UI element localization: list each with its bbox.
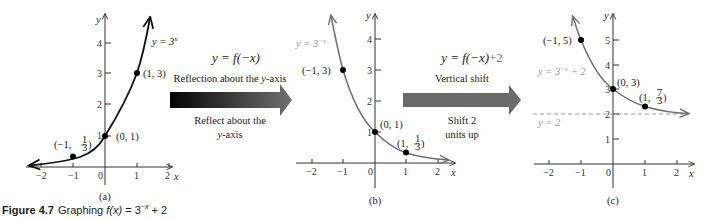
x-axis-label: x <box>688 168 694 179</box>
x-tick-label: 0 <box>368 166 373 177</box>
y-tick-label: 4 <box>97 38 102 49</box>
panel-label: (c) <box>607 195 619 207</box>
caption-eq: = 3 <box>122 204 141 216</box>
transform-vertical-shift: y = f(−x)+2 Vertical shift Shift 2 units… <box>403 50 521 140</box>
y-axis-label: y <box>95 14 101 25</box>
transform-description: y-axis <box>216 129 242 140</box>
point-marker <box>610 86 616 92</box>
x-tick-label: −2 <box>36 170 47 181</box>
transform-arrow <box>403 85 521 115</box>
transform-reflection: y = f(−x) Reflection about the y-axis Re… <box>170 50 292 140</box>
point-label: (0, 1) <box>380 119 403 131</box>
point-label: (−1, <box>54 139 71 151</box>
point-label-close: ) <box>663 92 667 104</box>
point-marker <box>372 129 378 135</box>
figure-4-7: −2 −1 0 1 2 x 1 2 3 4 y (−1, 1 3 ) (0, 1… <box>0 0 717 220</box>
panel-b: −2 −1 0 1 2 x 1 2 3 4 y (−1, 3) (0, 1) (… <box>295 10 456 207</box>
y-axis-label: y <box>603 10 609 21</box>
point-marker <box>70 154 76 160</box>
y-tick-label: 2 <box>605 109 610 120</box>
y-tick-label: 5 <box>605 35 610 46</box>
y-tick-label: 1 <box>97 130 102 141</box>
point-marker <box>102 133 108 139</box>
panel-label: (b) <box>369 195 382 207</box>
asymptote-label: y = 2 <box>537 117 561 128</box>
point-label-close: ) <box>88 139 92 151</box>
curve-label: y = 3x <box>151 35 178 47</box>
x-tick-label: −1 <box>337 166 348 177</box>
panel-c: −2 −1 0 1 2 x 1 2 3 4 5 y (−1, 5) (0, 3)… <box>533 10 694 207</box>
point-label-close: ) <box>421 138 425 150</box>
point-marker <box>578 37 584 43</box>
curve-3-pow-neg-x <box>331 16 448 160</box>
x-tick-label: −2 <box>306 166 317 177</box>
caption-func: f(x) <box>106 204 122 216</box>
y-tick-label: 3 <box>367 65 372 76</box>
figure-caption: Figure 4.7Graphing f(x) = 3−x + 2 <box>2 203 167 216</box>
x-tick-label: 2 <box>435 166 440 177</box>
transform-arrow <box>170 84 292 116</box>
point-label-frac-den: 3 <box>415 141 420 152</box>
transform-formula: y = f(−x) <box>210 50 260 65</box>
point-marker <box>403 150 409 156</box>
x-tick-label: −2 <box>543 167 554 178</box>
x-tick-label: 0 <box>98 170 103 181</box>
point-label: (0, 3) <box>617 77 640 89</box>
x-tick-label: 1 <box>134 170 139 181</box>
x-tick-label: −1 <box>68 170 79 181</box>
y-tick-label: 3 <box>97 68 102 79</box>
y-tick-label: 4 <box>367 34 372 45</box>
transform-description: Shift 2 <box>448 115 476 126</box>
point-label: (1, <box>639 92 650 104</box>
y-tick-label: 2 <box>367 96 372 107</box>
transform-title: Reflection about the y-axis <box>174 73 287 84</box>
curve-label: y = 3−x <box>295 37 327 49</box>
point-label-frac-den: 3 <box>657 95 662 106</box>
point-label-frac-den: 3 <box>82 142 87 153</box>
transform-description: Reflect about the <box>194 115 266 126</box>
panel-label: (a) <box>99 191 111 203</box>
point-marker <box>340 67 346 73</box>
curve-label: y = 3−x + 2 <box>537 65 586 77</box>
x-tick-label: 2 <box>674 167 679 178</box>
figure-number: Figure 4.7 <box>2 204 54 216</box>
x-tick-label: −1 <box>575 167 586 178</box>
curve-3-pow-neg-x-plus-2 <box>573 17 688 114</box>
y-ticks <box>105 43 111 136</box>
caption-tail: + 2 <box>148 204 167 216</box>
y-axis-label: y <box>365 10 371 21</box>
x-tick-label: 2 <box>165 170 170 181</box>
panel-a: −2 −1 0 1 2 x 1 2 3 4 y (−1, 1 3 ) (0, 1… <box>26 14 179 203</box>
y-tick-label: 1 <box>605 134 610 145</box>
point-label: (−1, 5) <box>543 35 572 47</box>
y-tick-label: 4 <box>605 60 610 71</box>
x-axis-label: x <box>173 171 179 182</box>
x-tick-label: 0 <box>606 167 611 178</box>
transform-title: Vertical shift <box>435 73 489 84</box>
transform-description: units up <box>445 129 479 140</box>
x-axis-label: x <box>450 167 456 178</box>
caption-prefix: Graphing <box>58 204 106 216</box>
point-label: (1, <box>397 138 408 150</box>
point-label: (−1, 3) <box>302 65 331 77</box>
point-label: (1, 3) <box>143 68 166 80</box>
point-marker <box>642 104 648 110</box>
x-tick-label: 1 <box>403 166 408 177</box>
y-tick-label: 2 <box>97 99 102 110</box>
point-label: (0, 1) <box>116 131 139 143</box>
x-tick-label: 1 <box>642 167 647 178</box>
point-marker <box>134 70 140 76</box>
transform-formula: y = f(−x)+2 <box>439 50 503 65</box>
